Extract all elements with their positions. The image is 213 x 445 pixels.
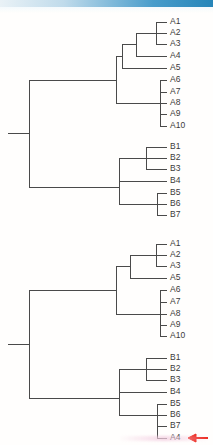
leaf-label-a2: A2 [170,27,181,37]
leaf-label-b7: B7 [170,209,181,219]
leaf-label-a1: A1 [170,16,181,26]
leaf-label-a10-bottom: A10 [170,330,185,340]
cluster-b5-b6-b7-a4-bottom [151,404,167,438]
leaf-label-b4: B4 [170,175,181,185]
leaf-label-b2-bottom: B2 [170,363,181,373]
leaf-label-a2-bottom: A2 [170,249,181,259]
cluster-a-group-bottom [29,266,130,314]
cluster-a6-a10 [116,80,167,126]
dendrogram-top-panel: A1 A2 A3 A4 A5 A6 A7 A8 A9 A10 B1 B2 B3 … [0,0,213,222]
dendrogram-top-svg: A1 A2 A3 A4 A5 A6 A7 A8 A9 A10 B1 B2 B3 … [0,0,213,222]
cluster-a1-a2-a3-bottom [149,244,167,266]
leaf-label-b4-bottom: B4 [170,386,181,396]
leaf-label-b6: B6 [170,198,181,208]
cluster-a-group [29,56,122,103]
cluster-b1-b2-b3 [136,147,167,169]
leaf-label-a6-bottom: A6 [170,284,181,294]
cluster-b5-b6-b7 [151,193,167,215]
leaf-label-a8: A8 [170,97,181,107]
dendrogram-bottom-panel: A1 A2 A3 A5 A6 A7 A8 A9 A10 B1 B2 B3 B4 … [0,222,213,445]
leaf-label-a4: A4 [170,50,181,60]
figure-canvas: A1 A2 A3 A4 A5 A6 A7 A8 A9 A10 B1 B2 B3 … [0,0,213,445]
leaf-label-b2: B2 [170,152,181,162]
cluster-b-group [29,169,151,204]
leaf-label-a9: A9 [170,108,181,118]
leaf-label-b1-bottom: B1 [170,352,181,362]
leaf-label-a7: A7 [170,86,181,96]
leaf-label-a3: A3 [170,38,181,48]
leaf-label-a1-bottom: A1 [170,238,181,248]
dendrogram-bottom-svg: A1 A2 A3 A5 A6 A7 A8 A9 A10 B1 B2 B3 B4 … [0,222,213,445]
leaf-label-b3-bottom: B3 [170,374,181,384]
leaf-label-a5: A5 [170,62,181,72]
leaf-label-group: A1 A2 A3 A4 A5 A6 A7 A8 A9 A10 B1 B2 B3 … [170,16,185,219]
leaf-label-a5-bottom: A5 [170,272,181,282]
leaf-label-a3-bottom: A3 [170,260,181,270]
leaf-label-b1: B1 [170,141,181,151]
leaf-label-b3: B3 [170,163,181,173]
cluster-a1-a2-a3 [149,22,167,44]
leaf-label-b5: B5 [170,187,181,197]
leaf-label-group-bottom: A1 A2 A3 A5 A6 A7 A8 A9 A10 B1 B2 B3 B4 … [170,238,185,442]
leaf-label-a6: A6 [170,74,181,84]
cluster-a6-a10-bottom [116,290,167,336]
leaf-label-a10: A10 [170,120,185,130]
page-edge-artifact [118,436,210,441]
leaf-label-a9-bottom: A9 [170,319,181,329]
tree-root-bottom [8,290,29,398]
leaf-label-a8-bottom: A8 [170,308,181,318]
cluster-b1-b2-b3-bottom [136,358,167,380]
leaf-label-b5-bottom: B5 [170,398,181,408]
leaf-label-b6-bottom: B6 [170,409,181,419]
cluster-b-group-bottom [29,380,151,415]
leaf-label-a7-bottom: A7 [170,296,181,306]
leaf-label-b7-bottom: B7 [170,420,181,430]
tree-root [8,80,29,187]
